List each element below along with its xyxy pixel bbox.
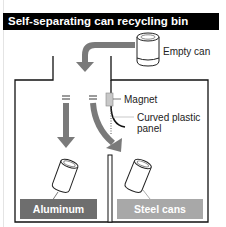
aluminum-cans-label: Aluminum cans bbox=[20, 199, 97, 219]
steel-leader bbox=[143, 190, 150, 199]
drop-arrow-head bbox=[76, 62, 94, 72]
steel-can-icon bbox=[124, 157, 153, 194]
aluminum-can-icon bbox=[51, 157, 79, 194]
aluminum-arrow bbox=[57, 96, 75, 148]
drop-arrow-shaft bbox=[85, 45, 135, 63]
steel-cans-label: Steel cans bbox=[117, 199, 203, 219]
bin-divider bbox=[108, 155, 112, 222]
magnet-label: Magnet bbox=[124, 94, 157, 105]
magnet bbox=[106, 93, 113, 106]
curved-plastic-panel bbox=[111, 105, 125, 127]
empty-can-label: Empty can bbox=[163, 46, 210, 57]
curved-panel-label: Curved plastic panel bbox=[137, 112, 201, 134]
empty-can-icon bbox=[137, 33, 159, 66]
